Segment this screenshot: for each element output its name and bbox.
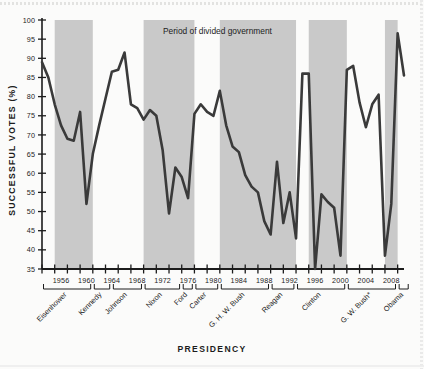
x-axis-year-label: 1960 — [78, 276, 95, 285]
chart-page: 35404550556065707580859095100 1956196019… — [0, 0, 424, 369]
presidency-label: G. H. W. Bush — [207, 290, 246, 329]
presidency-label: Clinton — [300, 290, 323, 313]
presidency-label: Eisenhower — [35, 290, 69, 324]
x-axis-year-label: 1972 — [154, 276, 171, 285]
x-axis-year-label: 1964 — [103, 276, 120, 285]
y-axis-tick-label: 95 — [27, 35, 35, 44]
y-axis-tick-label: 50 — [27, 207, 35, 216]
y-axis-tick-label: 65 — [27, 150, 35, 159]
legend-swatch — [146, 25, 157, 35]
x-axis-year-label: 1984 — [230, 276, 247, 285]
chart-legend: Period of divided government — [146, 25, 273, 36]
y-axis-tick-label: 55 — [27, 188, 35, 197]
y-axis-tick-label: 75 — [27, 111, 35, 120]
divided-government-band — [144, 20, 195, 269]
presidency-label: G. W. Bush* — [339, 290, 374, 325]
x-axis-year-label: 2004 — [357, 276, 374, 285]
divided-government-band — [55, 20, 93, 269]
presidency-bracket — [399, 284, 408, 289]
y-axis-tick-label: 80 — [27, 92, 35, 101]
presidency-label: Nixon — [144, 290, 164, 310]
presidency-label: Reagan — [260, 290, 285, 315]
y-axis-title: SUCCESSFUL VOTES (%) — [7, 84, 17, 215]
y-axis-tick-label: 40 — [27, 245, 35, 254]
x-axis-title: PRESIDENCY — [178, 344, 247, 354]
presidency-label: Obama — [382, 289, 406, 313]
presidency-label: Johnson — [103, 290, 129, 316]
x-axis-year-label: 1992 — [281, 276, 298, 285]
y-axis-tick-label: 85 — [27, 73, 35, 82]
divided-government-bands — [55, 20, 398, 269]
y-axis-tick-label: 70 — [27, 131, 35, 140]
x-axis-year-label: 2000 — [332, 276, 349, 285]
y-axis-tick-label: 60 — [27, 169, 35, 178]
legend-label: Period of divided government — [163, 26, 273, 36]
y-axis: 35404550556065707580859095100 — [23, 16, 46, 274]
y-axis-tick-label: 45 — [27, 226, 35, 235]
x-axis-year-label: 1956 — [53, 276, 70, 285]
x-axis-year-label: 1980 — [205, 276, 222, 285]
successful-votes-line-chart: 35404550556065707580859095100 1956196019… — [0, 0, 424, 369]
x-axis-year-label: 1968 — [129, 276, 146, 285]
presidency-label: Kennedy — [76, 290, 103, 317]
y-axis-tick-label: 100 — [23, 16, 35, 25]
x-axis-year-label: 1988 — [256, 276, 273, 285]
x-axis-year-label: 2008 — [383, 276, 400, 285]
y-axis-tick-label: 90 — [27, 54, 35, 63]
x-axis-year-label: 1996 — [307, 276, 324, 285]
x-axis-year-label: 1976 — [180, 276, 197, 285]
y-axis-tick-label: 35 — [27, 265, 35, 274]
presidency-brackets: EisenhowerKennedyJohnsonNixonFordCarterG… — [35, 284, 408, 330]
presidency-label: Carter — [187, 290, 208, 311]
